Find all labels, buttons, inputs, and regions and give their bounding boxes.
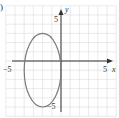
y-max-tick-label: 5: [54, 15, 58, 24]
x-axis-arrow-icon: [107, 59, 113, 64]
y-min-tick-label: −5: [47, 102, 56, 111]
x-axis-label: x: [111, 65, 116, 74]
x-min-tick-label: −5: [3, 65, 12, 74]
ellipse-chart: −5 5 x 5 y −5: [0, 0, 119, 118]
y-axis-arrow-icon: [59, 9, 64, 15]
y-axis-label: y: [64, 5, 69, 14]
x-max-tick-label: 5: [103, 65, 107, 74]
